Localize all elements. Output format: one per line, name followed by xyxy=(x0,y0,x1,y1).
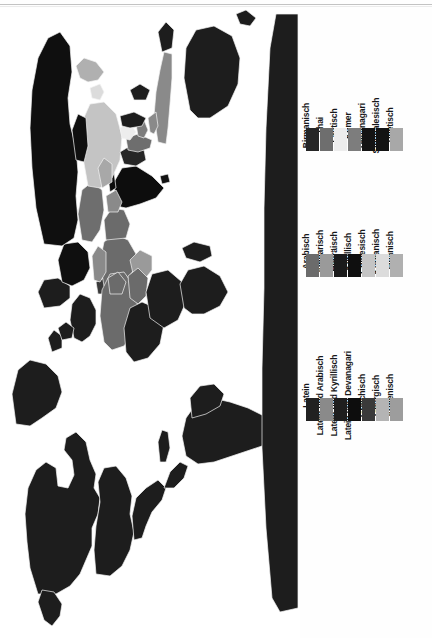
legend-swatch[interactable] xyxy=(320,398,333,421)
legend-swatch[interactable] xyxy=(362,128,375,151)
legend-swatch[interactable] xyxy=(362,254,375,277)
legend-swatch[interactable] xyxy=(320,254,333,277)
legend-labels-row-2: Arabisch Amharisch Hebräisch Kyrillisch … xyxy=(306,168,403,252)
scan-edge-line-secondary xyxy=(0,6,432,7)
legend-swatch[interactable] xyxy=(348,128,361,151)
continent-antarctica xyxy=(262,14,298,612)
legend-swatch[interactable] xyxy=(390,398,403,421)
page-canvas: Birmanisch Thai Laotisch Khmer Devanagar… xyxy=(0,0,432,638)
country-russia xyxy=(30,32,78,246)
legend-swatch[interactable] xyxy=(334,128,347,151)
legend-label-cell: Birmanisch xyxy=(306,30,319,126)
legend-swatch-row-1 xyxy=(306,128,403,151)
legend-swatch[interactable] xyxy=(376,254,389,277)
legend-swatch[interactable] xyxy=(306,398,319,421)
legend: Birmanisch Thai Laotisch Khmer Devanagar… xyxy=(300,8,432,638)
legend-swatch[interactable] xyxy=(376,128,389,151)
legend-swatch[interactable] xyxy=(334,398,347,421)
legend-swatch[interactable] xyxy=(348,398,361,421)
legend-swatch[interactable] xyxy=(390,254,403,277)
legend-label: Latein und Devanagari xyxy=(342,351,355,441)
world-map-svg xyxy=(0,8,300,638)
legend-swatch-row-3 xyxy=(306,398,403,421)
legend-swatch[interactable] xyxy=(390,128,403,151)
legend-block-latin-and-european-scripts: Latein Latein und Arabisch Latein und Ky… xyxy=(300,290,432,440)
legend-swatch[interactable] xyxy=(362,398,375,421)
legend-swatch[interactable] xyxy=(376,398,389,421)
legend-block-brahmic-and-southeast-asian-scripts: Birmanisch Thai Laotisch Khmer Devanagar… xyxy=(300,30,432,170)
legend-swatch-row-2 xyxy=(306,254,403,277)
map-rotated-container xyxy=(0,8,300,638)
legend-swatch[interactable] xyxy=(306,128,319,151)
legend-label: Latein und Kyrillisch xyxy=(328,355,341,438)
legend-swatch[interactable] xyxy=(334,254,347,277)
legend-label: Latein und Arabisch xyxy=(314,356,327,437)
legend-label-cell: Armenisch xyxy=(390,290,403,396)
legend-label-cell: Japanisch xyxy=(390,168,403,252)
legend-swatch[interactable] xyxy=(320,128,333,151)
world-map[interactable] xyxy=(0,8,300,638)
scan-edge-line xyxy=(0,4,432,5)
legend-block-abjad-and-east-asian-scripts: Arabisch Amharisch Hebräisch Kyrillisch … xyxy=(300,168,432,293)
legend-labels-row-3: Latein Latein und Arabisch Latein und Ky… xyxy=(306,290,403,396)
legend-swatch[interactable] xyxy=(306,254,319,277)
legend-labels-row-1: Birmanisch Thai Laotisch Khmer Devanagar… xyxy=(306,30,403,126)
country-sri-lanka xyxy=(160,174,170,184)
legend-swatch[interactable] xyxy=(348,254,361,277)
legend-label-cell: Tibetisch xyxy=(390,30,403,126)
